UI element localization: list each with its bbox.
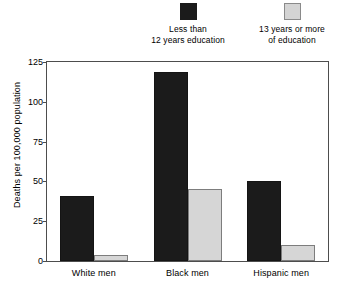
y-tick-label: 25 [3, 217, 43, 226]
legend-entry-13-years-or-more: 13 years or more of education [244, 3, 340, 45]
y-axis-ticks: 0255075100125 [0, 61, 43, 262]
bar-hispanic-men-series-1 [281, 245, 315, 261]
bar-white-men-series-0 [60, 196, 94, 261]
x-tick-label-hispanic-men: Hispanic men [253, 268, 309, 279]
chart-legend: Less than 12 years education 13 years or… [140, 3, 340, 53]
y-tick-label: 50 [3, 177, 43, 186]
bar-black-men-series-0 [154, 72, 188, 261]
legend-swatch-light [284, 3, 301, 20]
y-tick-label: 0 [3, 257, 43, 266]
bar-white-men-series-1 [94, 255, 128, 261]
y-tick-label: 125 [3, 58, 43, 67]
bar-hispanic-men-series-0 [247, 181, 281, 261]
x-axis-labels: White menBlack menHispanic men [46, 268, 329, 284]
legend-entry-less-than-12-years: Less than 12 years education [140, 3, 236, 45]
bar-black-men-series-1 [188, 189, 222, 261]
legend-swatch-dark [180, 3, 197, 20]
legend-label-13-years-or-more: 13 years or more of education [244, 24, 340, 45]
bar-chart-figure: Less than 12 years education 13 years or… [0, 0, 340, 295]
y-tick-label: 100 [3, 97, 43, 106]
legend-label-less-than-12-years: Less than 12 years education [140, 24, 236, 45]
bars-layer [47, 62, 328, 261]
x-tick-label-white-men: White men [72, 268, 116, 279]
x-tick-label-black-men: Black men [166, 268, 209, 279]
y-tick-label: 75 [3, 137, 43, 146]
